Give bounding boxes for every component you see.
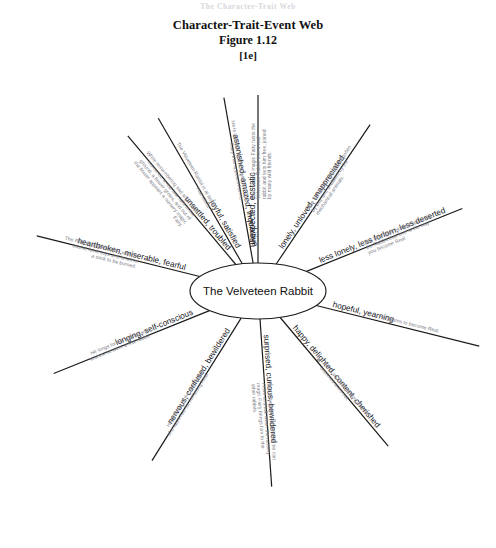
spoke-surprised-curious-bewildered[interactable]: surprised, curious, bewilderedThe Velvet… xyxy=(250,319,278,487)
spoke-event-label: The Rabbit is taken away with thescarlet… xyxy=(62,235,140,270)
center-node-label: The Velveteen Rabbit xyxy=(203,285,314,297)
spoke-event-label: The Velveteen Rabbit is forgottenby Boy … xyxy=(305,144,361,216)
web-canvas: unexpected, ecstaticThe nursery magic Fa… xyxy=(0,62,496,548)
spoke-event-label: He is afraid of the real rabbitswho taun… xyxy=(161,368,211,438)
spoke-heartbroken-miserable-fearful[interactable]: heartbroken, miserable, fearfulThe Rabbi… xyxy=(37,235,200,277)
spoke-hopeful-yearning[interactable]: hopeful, yearningHe yearns to become Rea… xyxy=(316,300,479,346)
figure-number: Figure 1.12 xyxy=(0,33,496,48)
spoke-event-line: other rabbits. xyxy=(250,383,258,413)
spoke-less-lonely-less-forlorn-less-deserted[interactable]: less lonely, less forlorn, less deserted… xyxy=(307,206,463,272)
spoke-event-label: The Velveteen Rabbit finds he canmove an… xyxy=(250,382,278,461)
spoke-happy-delighted-content-cherished[interactable]: happy, delighted, content, cherishedHe i… xyxy=(280,318,388,447)
character-trait-event-web: unexpected, ecstaticThe nursery magic Fa… xyxy=(0,62,496,548)
title-block: Character-Trait-Event Web Figure 1.12 [1… xyxy=(0,18,496,63)
spoke-event-label: He is so loved by Boy that hebecomes wor… xyxy=(319,361,370,419)
spoke-nervous-confused-bewildered[interactable]: nervous, confused, bewilderedHe is afrai… xyxy=(152,318,241,461)
spoke-event-label: He longs for his soft fur andwishes he w… xyxy=(87,327,152,362)
running-header: The Character-Trait Web xyxy=(0,2,496,11)
figure-page: The Character-Trait Web Character-Trait-… xyxy=(0,0,496,548)
center-node[interactable]: The Velveteen Rabbit xyxy=(190,263,326,319)
spoke-event-line: He is so loved by Boy that he xyxy=(323,361,370,416)
spoke-event-line: who taunt him for not being Real. xyxy=(165,371,210,438)
spoke-event-line: He is afraid of the real rabbits xyxy=(165,368,206,428)
spoke-line xyxy=(316,306,479,347)
spoke-event-label: The nursery magic Fairy turns theVelvete… xyxy=(250,123,272,199)
figure-code: [1e] xyxy=(0,48,496,63)
spoke-longing-self-conscious[interactable]: longing, self-consciousHe longs for his … xyxy=(54,308,210,374)
page-title: Character-Trait-Event Web xyxy=(0,18,496,33)
spoke-event-line: by many wild friends. xyxy=(266,151,272,199)
spoke-unsettled-troubled[interactable]: unsettled, troubledWhile remembering sad… xyxy=(128,136,236,265)
spoke-event-label: He is amazed by the flower and theFairy … xyxy=(225,120,250,201)
